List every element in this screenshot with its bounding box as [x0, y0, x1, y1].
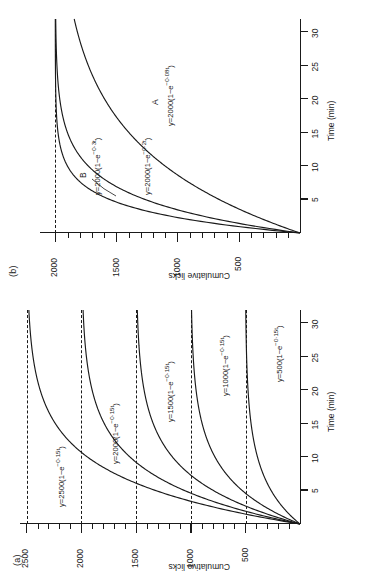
panel-a-equation-2000-base: y=2000(1−e	[111, 423, 120, 464]
panel-a-equation-500-exp: −0·15t	[272, 328, 279, 346]
panel-a: (a) 500 1000 1500 2000 2500 Cumulative l…	[0, 291, 387, 582]
panel-b-curves	[0, 0, 387, 291]
panel-b-equation-k0-3-base: y=2000(1−e	[93, 154, 102, 195]
panel-a-equation-2500: y=2500(1−e−0·15t)	[54, 446, 66, 507]
panel-a-equation-1500: y=1500(1−e−0·15t)	[163, 361, 175, 422]
panel-b-rotation-wrapper: (b) 500 1000 1500 2000 Cumulative licks	[0, 0, 387, 291]
panel-a-equation-500: y=500(1−e−0·15t)	[272, 325, 284, 382]
panel-b-equation-k0-2-exp: −0·2t	[140, 140, 147, 154]
panel-b-equation-k0-08-exp: −0·08t	[163, 68, 170, 86]
panel-a-equation-2500-base: y=2500(1−e	[57, 466, 66, 507]
panel-a-equation-1500-exp: −0·15t	[163, 364, 170, 382]
panel-a-equation-1000-exp: −0·15t	[218, 338, 225, 356]
panel-a-equation-1500-close: )	[166, 361, 175, 364]
panel-a-rotation-wrapper: (a) 500 1000 1500 2000 2500 Cumulative l…	[0, 291, 387, 582]
panel-a-equation-1000-close: )	[221, 335, 230, 338]
panel-a-equation-2000-close: )	[111, 403, 120, 406]
panel-b-equation-k0-3: y=2000(1−e−0·3t)	[90, 138, 102, 195]
panel-a-equation-1500-base: y=1500(1−e	[166, 381, 175, 422]
panel-a-equation-2000: y=2000(1−e−0·15t)	[108, 403, 120, 464]
panel-a-equation-1000: y=1000(1−e−0·15t)	[218, 335, 230, 396]
panel-b-equation-k0-08-close: )	[166, 65, 175, 68]
panel-b-equation-k0-3-close: )	[93, 138, 102, 141]
panel-b-curve-tag-B: B	[78, 172, 88, 178]
panel-b: (b) 500 1000 1500 2000 Cumulative licks	[0, 0, 387, 291]
panel-b-curve-k0-2	[56, 19, 300, 233]
panel-b-equation-k0-2-base: y=2000(1−e	[143, 154, 152, 195]
panel-a-equation-2500-close: )	[57, 446, 66, 449]
panel-b-equation-k0-2-close: )	[143, 138, 152, 141]
panel-a-equation-1000-base: y=1000(1−e	[221, 355, 230, 396]
panel-a-equation-2500-exp: −0·15t	[54, 449, 61, 467]
panel-b-equation-k0-3-exp: −0·3t	[90, 140, 97, 154]
panel-b-equation-k0-2: y=2000(1−e−0·2t)	[140, 138, 152, 195]
figure-page: (b) 500 1000 1500 2000 Cumulative licks	[0, 0, 387, 582]
panel-a-curves	[0, 291, 387, 582]
panel-b-equation-k0-08: y=2000(1−e−0·08t)	[163, 65, 175, 126]
panel-a-equation-500-close: )	[275, 325, 284, 328]
panel-b-curve-tag-A: A	[150, 99, 160, 105]
panel-a-equation-2000-exp: −0·15t	[108, 406, 115, 424]
panel-b-equation-k0-08-base: y=2000(1−e	[166, 85, 175, 126]
panel-a-equation-500-base: y=500(1−e	[275, 346, 284, 382]
panel-b-curve-k0-08	[74, 19, 300, 233]
panel-b-curve-k0-3	[55, 19, 300, 233]
